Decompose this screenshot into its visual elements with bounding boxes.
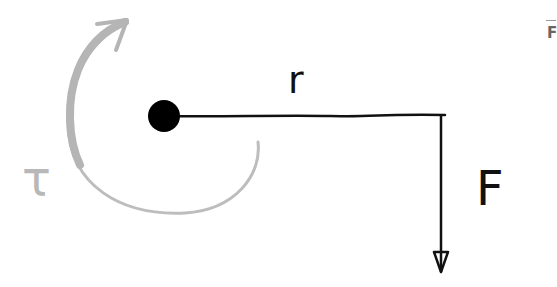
corner-fragment-label: F	[547, 24, 557, 42]
lever-arm	[164, 115, 445, 116]
pivot-dot	[148, 100, 180, 132]
force-label: F	[476, 160, 504, 216]
radius-label: r	[288, 58, 304, 102]
torque-label: τ	[22, 150, 51, 206]
corner-dash	[546, 20, 556, 21]
